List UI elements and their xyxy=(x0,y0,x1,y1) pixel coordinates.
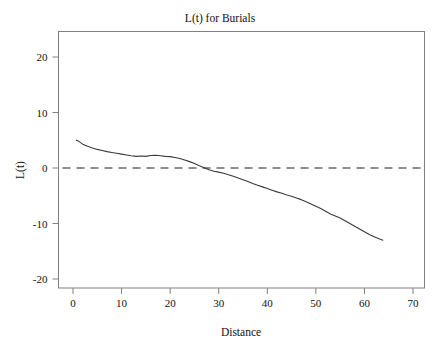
x-tick-label: 20 xyxy=(165,297,177,309)
y-tick-label: -10 xyxy=(33,218,48,230)
x-tick-label: 60 xyxy=(359,297,371,309)
x-axis-title: Distance xyxy=(221,326,261,338)
y-tick-label: 20 xyxy=(37,51,49,63)
x-tick-label: 50 xyxy=(310,297,322,309)
x-tick-label: 10 xyxy=(116,297,128,309)
x-tick-label: 70 xyxy=(408,297,420,309)
y-tick-label: 10 xyxy=(37,107,49,119)
line-chart: L(t) for Burials 010203040506070 20100-1… xyxy=(0,0,441,345)
x-tick-label: 40 xyxy=(262,297,274,309)
y-axis-title: L(t) xyxy=(14,161,27,179)
y-tick-label: 0 xyxy=(42,162,48,174)
y-tick-label: -20 xyxy=(33,273,48,285)
x-tick-label: 0 xyxy=(70,297,76,309)
chart-title: L(t) for Burials xyxy=(185,12,256,25)
x-tick-label: 30 xyxy=(213,297,225,309)
chart-figure: L(t) for Burials 010203040506070 20100-1… xyxy=(0,0,441,345)
